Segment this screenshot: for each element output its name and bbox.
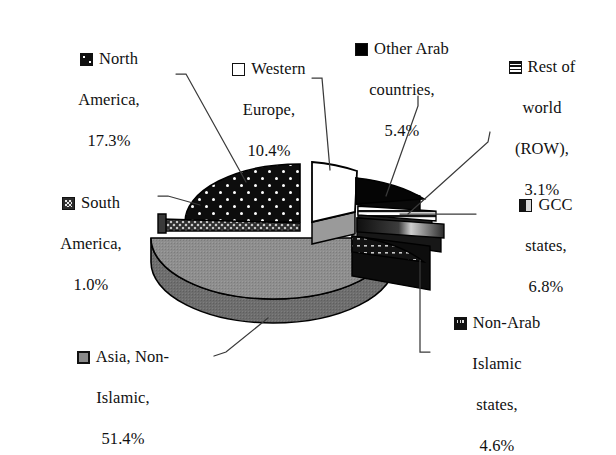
slice-label-rest-of-world-line2: (ROW), [468,139,616,160]
slice-label-other-arab-countries-line0: Other Arab [374,39,449,60]
slice-label-other-arab-countries: Other Arab countries, 5.4% [318,18,486,162]
slice-label-north-america-line0: North [99,49,138,70]
slice-label-gcc-states-line1: states, [476,236,616,257]
pie-slices [151,162,444,323]
slice-label-gcc-states-line0: GCC [538,195,572,216]
slice-label-asia-non-islamic-line0: Asia, Non- [96,347,169,368]
swatch-other-arab-countries-icon [355,43,368,56]
slice-label-south-america-line0: South [81,193,120,214]
swatch-western-europe-icon [232,63,245,76]
slice-label-asia-non-islamic-line2: 51.4% [28,429,218,450]
swatch-rest-of-world-icon [509,61,522,74]
slice-label-asia-non-islamic: Asia, Non- Islamic, 51.4% [28,326,218,455]
swatch-north-america-icon [80,53,93,66]
slice-label-gcc-states-row0: GCC [476,195,616,216]
slice-label-non-arab-islamic-states: Non-Arab Islamic states, 4.6% [422,292,572,455]
slice-label-north-america-row0: North [24,49,194,70]
slice-label-non-arab-islamic-states-row0: Non-Arab [422,313,572,334]
slice-label-other-arab-countries-line2: 5.4% [318,121,486,142]
slice-label-western-europe-line0: Western [251,59,305,80]
slice-label-south-america-line1: America, [12,234,170,255]
swatch-non-arab-islamic-states-icon [454,317,467,330]
slice-label-non-arab-islamic-states-line3: 4.6% [422,436,572,455]
slice-label-north-america-line2: 17.3% [24,131,194,152]
slice-label-north-america: North America, 17.3% [24,28,194,172]
slice-label-south-america: South America, 1.0% [12,172,170,316]
swatch-south-america-icon [62,197,75,210]
swatch-gcc-states-icon [519,199,532,212]
slice-label-asia-non-islamic-line1: Islamic, [28,388,218,409]
slice-label-other-arab-countries-line1: countries, [318,80,486,101]
slice-label-rest-of-world-line1: world [468,98,616,119]
slice-label-non-arab-islamic-states-line1: Islamic [422,354,572,375]
slice-label-rest-of-world-row0: Rest of [468,57,616,78]
slice-label-other-arab-countries-row0: Other Arab [318,39,486,60]
slice-label-non-arab-islamic-states-line2: states, [422,395,572,416]
slice-label-asia-non-islamic-row0: Asia, Non- [28,347,218,368]
slice-label-south-america-row0: South [12,193,170,214]
slice-label-non-arab-islamic-states-line0: Non-Arab [473,313,541,334]
swatch-asia-non-islamic-icon [77,351,90,364]
slice-label-rest-of-world-line0: Rest of [528,57,576,78]
leader-line-asia-non-islamic [214,318,268,356]
slice-label-north-america-line1: America, [24,90,194,111]
slice-label-south-america-line2: 1.0% [12,275,170,296]
